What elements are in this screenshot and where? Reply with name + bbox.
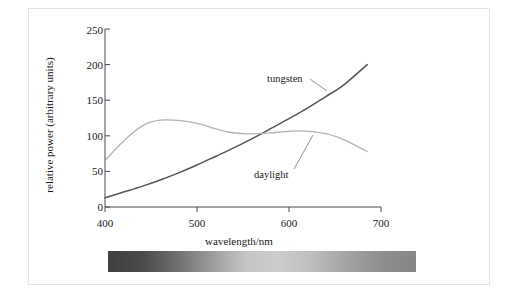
x-axis-label: wavelength/nm [109,235,369,247]
visible-spectrum-bar [108,251,416,272]
series-label-daylight: daylight [254,169,288,180]
y-tick-label-150: 150 [73,94,103,106]
y-tick-label-200: 200 [73,59,103,71]
x-tick-label-500: 500 [177,217,217,229]
x-tick-label-700: 700 [361,217,401,229]
chart-plot-area: relative power (arbitrary units) wavelen… [29,9,491,286]
x-tick-label-600: 600 [269,217,309,229]
series-label-tungsten: tungsten [267,73,303,84]
x-tick-label-400: 400 [85,217,125,229]
axes-group [105,29,381,207]
y-tick-label-0: 0 [73,201,103,213]
y-axis-ticks [105,29,110,207]
y-tick-label-100: 100 [73,130,103,142]
y-tick-label-50: 50 [73,165,103,177]
y-tick-label-250: 250 [73,24,103,36]
leader-line-daylight [294,135,313,169]
figure-frame: relative power (arbitrary units) wavelen… [28,8,490,285]
leader-line-tungsten [310,79,327,91]
series-line-tungsten [105,65,367,198]
x-axis-ticks [105,207,381,212]
series-line-daylight [105,120,367,161]
y-axis-label: relative power (arbitrary units) [43,50,55,200]
